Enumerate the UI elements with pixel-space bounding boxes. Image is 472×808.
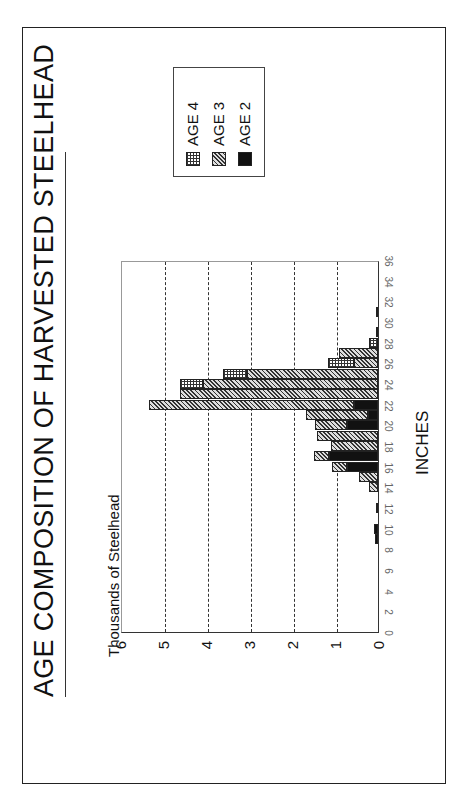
bar-age-3 — [339, 348, 378, 358]
bar-age-2 — [354, 400, 378, 410]
bar-age-3 — [315, 420, 347, 430]
bar-age-2 — [329, 451, 378, 461]
bar-age-3 — [149, 400, 354, 410]
solid-pattern-icon — [238, 152, 252, 166]
bar-age-3 — [306, 410, 368, 420]
bar-age-3 — [317, 431, 378, 441]
x-tick-label: 24 — [383, 378, 394, 392]
grid-pattern-icon — [186, 152, 200, 166]
gridline — [165, 262, 166, 632]
y-tick-label: 1 — [327, 641, 344, 657]
bar-age-3 — [332, 462, 347, 472]
x-tick-label: 18 — [383, 440, 394, 454]
bar-age-2 — [347, 420, 378, 430]
bar-age-2 — [347, 462, 378, 472]
legend: AGE 4 AGE 3 AGE 2 — [173, 67, 265, 177]
y-axis-label: Thousands of Steelhead — [105, 494, 122, 657]
y-tick-label: 3 — [241, 641, 258, 657]
legend-item-age3: AGE 3 — [210, 102, 227, 166]
x-tick-label: 8 — [383, 543, 394, 557]
x-tick-label: 26 — [383, 357, 394, 371]
x-axis-label: INCHES — [413, 411, 433, 475]
gridline — [208, 262, 209, 632]
y-tick-label: 2 — [284, 641, 301, 657]
bar-age-4 — [328, 358, 353, 368]
x-tick-label: 28 — [383, 337, 394, 351]
gridline — [294, 262, 295, 632]
x-tick-label: 32 — [383, 295, 394, 309]
x-tick-label: 34 — [383, 275, 394, 289]
gridline — [251, 262, 252, 632]
bar-age-3 — [314, 451, 330, 461]
title-underline — [65, 152, 66, 697]
y-tick-label: 4 — [198, 641, 215, 657]
x-tick-label: 36 — [383, 254, 394, 268]
bar-age-3 — [180, 389, 378, 399]
x-tick-label: 0 — [383, 626, 394, 640]
plot-area — [121, 261, 379, 633]
bar-age-3 — [354, 358, 379, 368]
x-tick-label: 22 — [383, 399, 394, 413]
chart-title: AGE COMPOSITION OF HARVESTED STEELHEAD — [29, 44, 60, 697]
x-tick-label: 16 — [383, 461, 394, 475]
x-tick-label: 20 — [383, 419, 394, 433]
legend-item-age2: AGE 2 — [236, 102, 253, 166]
x-tick-label: 4 — [383, 585, 394, 599]
bar-age-3 — [359, 472, 378, 482]
y-tick-label: 0 — [370, 641, 387, 657]
bar-age-2 — [374, 524, 378, 534]
bar-age-3 — [203, 379, 378, 389]
x-tick-label: 12 — [383, 502, 394, 516]
bar-age-3 — [376, 307, 378, 317]
y-tick-label: 5 — [155, 641, 172, 657]
bar-age-4 — [180, 379, 203, 389]
x-tick-label: 2 — [383, 605, 394, 619]
x-tick-label: 10 — [383, 523, 394, 537]
legend-item-age4: AGE 4 — [184, 102, 201, 166]
bar-age-4 — [223, 369, 247, 379]
bar-age-2 — [368, 410, 378, 420]
bar-age-2 — [375, 534, 378, 544]
hatch-pattern-icon — [212, 152, 226, 166]
y-tick-label: 6 — [112, 641, 129, 657]
bar-age-3 — [247, 369, 378, 379]
figure-frame: AGE COMPOSITION OF HARVESTED STEELHEAD T… — [22, 27, 446, 784]
bar-age-3 — [369, 482, 378, 492]
x-tick-label: 14 — [383, 481, 394, 495]
bar-age-3 — [376, 327, 378, 337]
bar-age-3 — [331, 441, 378, 451]
bar-age-2 — [376, 503, 378, 513]
x-tick-label: 30 — [383, 316, 394, 330]
x-tick-label: 6 — [383, 564, 394, 578]
rotated-chart: AGE COMPOSITION OF HARVESTED STEELHEAD T… — [23, 28, 447, 785]
bar-age-4 — [369, 338, 378, 348]
